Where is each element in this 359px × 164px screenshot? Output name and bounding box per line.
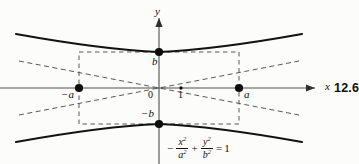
- equation-plus: +: [191, 142, 197, 154]
- equation-term-y-numerator: y2: [201, 136, 213, 148]
- point-label-neg-b: −b: [141, 108, 154, 119]
- point-x-right: [235, 84, 243, 92]
- equation-term-x-denominator: a2: [176, 149, 188, 161]
- equation-term-x: x2 a2: [176, 136, 188, 161]
- point-label-a: a: [244, 89, 250, 100]
- figure-number: 12.6: [334, 81, 359, 95]
- equation-label: − x2 a2 + y2 b2 = 1: [167, 136, 230, 161]
- unit-label: 1: [178, 90, 183, 100]
- x-axis-label: x: [325, 81, 330, 92]
- equation-term-x-numerator: x2: [176, 136, 188, 148]
- y-axis-label: y: [155, 6, 160, 17]
- point-x-left: [75, 84, 83, 92]
- equation-equals: =: [216, 142, 222, 154]
- equation-leading-minus: −: [167, 142, 173, 154]
- equation-term-y: y2 b2: [201, 136, 213, 161]
- x-axis: [0, 84, 315, 91]
- equation-rhs: 1: [224, 142, 230, 154]
- hyperbola-figure: x y b −b −a a 0 1 − x2 a2 + y2 b2 = 1 12…: [0, 0, 359, 164]
- origin-label: 0: [148, 90, 153, 100]
- equation-term-y-denominator: b2: [201, 149, 213, 161]
- point-label-b: b: [152, 56, 158, 67]
- y-axis: [155, 18, 162, 164]
- point-label-neg-a: −a: [61, 89, 74, 100]
- x-axis-arrowhead: [306, 84, 315, 91]
- y-axis-arrowhead: [155, 18, 162, 27]
- point-vertex-bottom: [155, 120, 163, 128]
